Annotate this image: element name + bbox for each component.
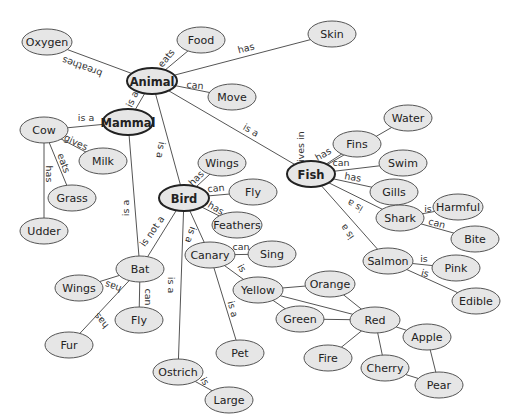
node-label: Pet [231,347,249,360]
edge-label: breathes [60,55,103,80]
node-pet: Pet [216,340,264,366]
edge-label: is [420,267,430,280]
edge-label: has [91,311,110,331]
node-label: Orange [310,278,351,291]
node-label: Udder [27,225,61,238]
node-label: Mammal [101,116,156,130]
node-animal: Animal [127,68,177,94]
node-fur: Fur [45,332,93,358]
node-canary: Canary [185,242,235,268]
edge-label: has [44,166,55,183]
node-label: Water [392,112,425,125]
node-skin: Skin [308,21,356,47]
node-bat: Bat [116,256,164,282]
node-food: Food [177,27,225,53]
node-oxygen: Oxygen [22,29,72,55]
node-label: Pear [427,379,452,392]
nodes-layer: OxygenFoodSkinAnimalMoveMammalCowMilkGra… [20,21,500,413]
edge-label: lives in [295,131,306,164]
node-label: Shark [384,212,416,225]
node-cow: Cow [20,117,68,143]
node-milk: Milk [79,148,127,174]
node-harmful: Harmful [433,194,483,220]
node-label: Bat [131,263,150,276]
node-label: Bird [171,192,198,206]
node-label: Grass [56,192,88,205]
node-udder: Udder [20,218,68,244]
edge-label: is a [338,222,356,242]
node-label: Edible [459,295,493,308]
node-fly_bat: Fly [115,307,163,333]
node-label: Large [214,394,245,407]
node-label: Canary [190,249,230,262]
node-label: Milk [92,155,115,168]
node-label: Fins [346,138,368,151]
node-label: Yellow [240,284,275,297]
node-orange: Orange [305,271,355,297]
node-move: Move [208,84,256,110]
node-shark: Shark [376,205,424,231]
node-mammal: Mammal [101,109,156,135]
node-label: Ostrich [158,366,197,379]
edge-label: is not a [137,214,166,249]
node-label: Apple [411,331,443,344]
node-grass: Grass [48,185,96,211]
node-bird: Bird [159,185,209,211]
edge-label: is a [183,225,199,244]
edge-label: eats [155,47,177,70]
node-label: Move [217,91,247,104]
node-label: Gills [382,186,406,199]
node-label: Harmful [436,201,480,214]
node-label: Fly [131,314,147,327]
edge-label: is a [78,112,94,123]
node-yellow: Yellow [233,277,283,303]
node-label: Cow [32,124,55,137]
node-label: Salmon [367,255,408,268]
node-label: Green [283,313,316,326]
edge-label: is a [154,141,168,159]
node-sing: Sing [248,241,296,267]
edge-label: has [236,41,255,56]
node-salmon: Salmon [363,248,413,274]
node-label: Animal [130,75,175,89]
node-label: Red [365,314,386,327]
node-wings_bat: Wings [55,275,103,301]
edge-label: can [207,182,225,194]
node-edible: Edible [452,288,500,314]
node-cherry: Cherry [361,355,409,381]
concept-map-canvas: breatheseatshascanis ais ais ais agivese… [0,0,519,420]
node-swim: Swim [379,150,427,176]
node-label: Bite [464,233,486,246]
edge-label: is a [241,121,261,139]
node-fly_bird: Fly [229,179,277,205]
node-label: Fur [60,339,78,352]
node-fins: Fins [333,131,381,157]
node-gills: Gills [370,179,418,205]
node-label: Food [188,34,214,47]
node-apple: Apple [403,324,451,350]
node-label: Pink [445,262,468,275]
edge-label: can [232,241,249,252]
node-pink: Pink [432,255,480,281]
node-label: Cherry [367,362,404,375]
edge-animal-bird [152,81,184,198]
node-label: Wings [62,282,96,295]
node-fish: Fish [287,161,335,187]
edge-label: is [235,262,248,274]
node-wings_bird: Wings [198,150,246,176]
edge-label: can [332,157,349,168]
node-label: Fly [245,186,261,199]
node-feathers: Feathers [212,212,262,238]
node-label: Fire [318,352,338,365]
node-label: Sing [260,248,284,261]
node-water: Water [384,105,432,131]
edge-label: is [424,203,432,214]
node-label: Swim [388,157,418,170]
edge-bird-ostrich [178,198,184,372]
node-red: Red [350,307,400,333]
node-bite: Bite [451,226,499,252]
node-label: Wings [205,157,239,170]
edge-label: is a [166,277,177,293]
edge-label: is a [226,300,241,319]
node-label: Fish [298,168,325,182]
